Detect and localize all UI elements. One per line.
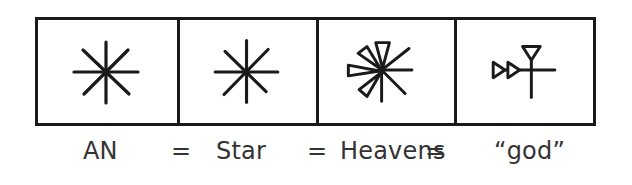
eight-pointed-star-icon	[180, 20, 316, 123]
cell-heavens	[316, 20, 454, 123]
eight-pointed-star-icon	[38, 20, 177, 123]
cell-god	[454, 20, 593, 123]
label-god: “god”	[494, 135, 565, 167]
label-an: AN	[83, 135, 118, 167]
equals-sign: =	[425, 135, 445, 167]
cuneiform-dingir-icon	[457, 20, 593, 123]
equals-sign: =	[307, 135, 327, 167]
cuneiform-star-with-wedges-icon	[319, 20, 454, 123]
label-star: Star	[216, 135, 266, 167]
glyph-panel-row	[35, 17, 596, 126]
equals-sign: =	[171, 135, 191, 167]
cell-star	[177, 20, 316, 123]
cell-an	[38, 20, 177, 123]
labels-row: AN = Star = Heavens = “god”	[0, 135, 632, 169]
